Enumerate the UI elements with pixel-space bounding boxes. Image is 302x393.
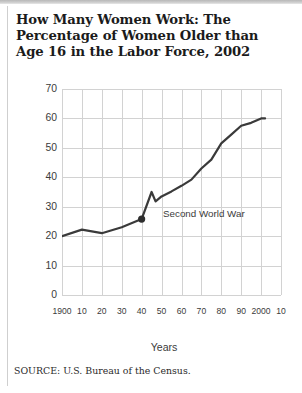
y-tick-label: 30 (17, 202, 57, 212)
y-tick-label: 20 (17, 231, 57, 241)
data-series-line (62, 89, 281, 295)
top-accent-bar (0, 0, 302, 4)
left-border-rule (7, 6, 8, 386)
chart-figure: How Many Women Work: The Percentage of W… (0, 0, 302, 393)
y-axis-tick-labels: 70 60 50 40 30 20 10 0 (12, 89, 57, 295)
y-tick-label: 50 (17, 143, 57, 153)
x-tick-label: 90 (236, 306, 246, 316)
x-tick-label: 1900 (52, 306, 71, 316)
chart-title: How Many Women Work: The Percentage of W… (16, 12, 288, 61)
x-tick-label: 10 (276, 306, 286, 316)
y-tick-label: 40 (17, 172, 57, 182)
second-world-war-marker (138, 215, 145, 222)
x-tick-label: 80 (217, 306, 227, 316)
y-tick-label: 10 (17, 261, 57, 271)
x-tick-label: 70 (197, 306, 207, 316)
x-axis-label: Years (0, 341, 302, 353)
x-axis-tick-labels: 1900 10 20 30 40 50 60 70 80 90 2000 10 (62, 306, 287, 320)
x-tick-label: 10 (77, 306, 87, 316)
chart-annotation-label: Second World War (163, 208, 245, 219)
gridline-vertical (281, 89, 282, 295)
y-tick-label: 0 (17, 290, 57, 300)
gridline-horizontal (62, 295, 281, 296)
x-tick-label: 2000 (252, 306, 271, 316)
x-tick-label: 50 (157, 306, 167, 316)
x-axis-label-text: Years (151, 341, 178, 353)
y-tick-label: 70 (17, 84, 57, 94)
x-tick-label: 20 (97, 306, 107, 316)
y-tick-label: 60 (17, 113, 57, 123)
x-tick-label: 30 (117, 306, 127, 316)
source-note: SOURCE: U.S. Bureau of the Census. (14, 365, 191, 376)
x-tick-label: 40 (137, 306, 147, 316)
plot-area (62, 89, 281, 295)
x-tick-label: 60 (177, 306, 187, 316)
